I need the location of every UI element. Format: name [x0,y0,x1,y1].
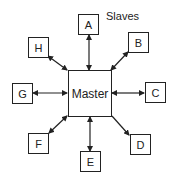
slave-box-h: H [28,37,49,58]
slave-box-f: F [28,133,49,154]
slave-box-e: E [80,151,101,172]
arrow-d [112,116,129,135]
slave-label: A [85,19,92,31]
slave-label: H [35,42,43,54]
slave-label: E [87,156,94,168]
slave-label: D [137,139,145,151]
slaves-label: Slaves [106,10,139,22]
arrow-f [49,116,67,133]
arrow-b [111,52,128,70]
slave-box-a: A [78,14,99,35]
slave-label: G [18,88,27,100]
master-box: Master [68,70,112,117]
master-slave-diagram: Slaves Master A B C D E F G H [0,0,177,181]
slave-label: B [135,37,142,49]
arrow-h [48,56,67,70]
slave-box-b: B [128,32,149,53]
slave-box-d: D [130,134,151,155]
slave-label: C [152,87,160,99]
slave-box-c: C [145,82,166,103]
slave-box-g: G [12,83,33,104]
slave-label: F [35,138,42,150]
master-label: Master [72,87,109,101]
